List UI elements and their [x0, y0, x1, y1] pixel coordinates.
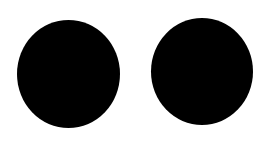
canvas: [0, 0, 271, 149]
left-circle-shape: [17, 20, 120, 128]
right-circle-shape: [151, 18, 253, 125]
